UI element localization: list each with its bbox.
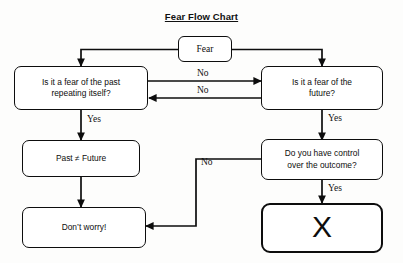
node-is-fear-of-future-label: Is it a fear of the future?: [292, 77, 352, 99]
node-fear[interactable]: Fear: [178, 36, 232, 62]
edge-label-yes-control: Yes: [327, 183, 343, 193]
node-dont-worry-label: Don’t worry!: [62, 222, 107, 233]
edge-fear-to-past: [81, 50, 178, 67]
edge-fear-to-future: [232, 50, 322, 67]
node-dont-worry[interactable]: Don’t worry!: [22, 207, 146, 248]
edge-label-no-top: No: [196, 68, 210, 78]
node-x-label: X: [312, 212, 332, 242]
edge-label-yes-left: Yes: [86, 114, 102, 124]
node-past-not-equal-future[interactable]: Past ≠ Future: [22, 140, 140, 177]
node-x[interactable]: X: [261, 203, 383, 253]
node-past-not-equal-future-label: Past ≠ Future: [56, 153, 106, 164]
node-is-fear-of-future[interactable]: Is it a fear of the future?: [261, 66, 383, 110]
flowchart-canvas: Fear Flow Chart: [0, 0, 403, 263]
edge-label-no-bottom: No: [196, 85, 210, 95]
node-do-you-have-control[interactable]: Do you have control over the outcome?: [261, 139, 383, 180]
node-is-fear-of-past-label: Is it a fear of the past repeating itsel…: [42, 77, 120, 99]
edge-label-no-control: No: [200, 157, 214, 167]
edge-control-to-dontworry-no: [146, 159, 261, 226]
node-fear-label: Fear: [197, 43, 214, 56]
node-do-you-have-control-label: Do you have control over the outcome?: [285, 148, 360, 170]
node-is-fear-of-past[interactable]: Is it a fear of the past repeating itsel…: [14, 66, 148, 110]
edge-label-yes-right: Yes: [327, 113, 343, 123]
